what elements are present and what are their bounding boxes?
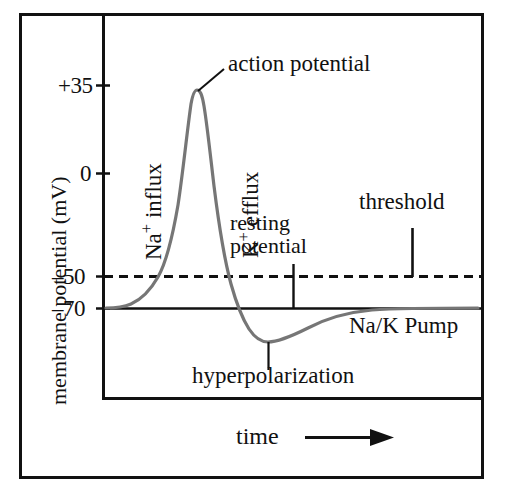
annotation-na-influx: Na+ influx <box>139 163 165 260</box>
annotation-action-potential: action potential <box>228 52 370 75</box>
annotation-hyperpolarization: hyperpolarization <box>192 364 354 387</box>
action-potential-figure: +35 0 –50 –70 membrane potential (mV) ac… <box>0 0 510 499</box>
na-influx-superscript: + <box>137 224 156 233</box>
resting-potential-line-2: potential <box>230 235 307 258</box>
y-tick-label-35: +35 <box>58 74 92 97</box>
annotation-na-k-pump: Na/K Pump <box>349 314 458 337</box>
time-arrow-icon <box>305 429 394 446</box>
na-influx-suffix: influx <box>141 163 166 218</box>
action-potential-leader-line <box>198 69 224 91</box>
x-axis-label: time <box>236 424 279 448</box>
na-influx-prefix: Na <box>141 233 166 260</box>
annotation-resting-potential: resting potential <box>230 212 307 258</box>
y-axis-title: membrane potential (mV) <box>48 177 70 405</box>
resting-potential-line-1: resting <box>230 212 307 235</box>
y-tick-label-0: 0 <box>80 162 91 185</box>
annotation-threshold: threshold <box>359 190 445 213</box>
